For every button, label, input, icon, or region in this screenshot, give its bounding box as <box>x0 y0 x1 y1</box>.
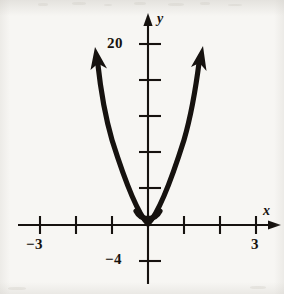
parabola-left-branch <box>98 62 148 224</box>
x-axis-label--3: −3 <box>26 237 43 252</box>
x-axis-label-3: 3 <box>251 237 259 252</box>
graph-figure: 20 −4 −3 3 y x <box>0 0 284 294</box>
y-axis-name: y <box>157 12 163 26</box>
y-tick-marks <box>139 44 161 261</box>
x-axis-arrowhead <box>268 221 281 230</box>
y-axis-arrowhead <box>143 13 152 26</box>
y-axis-label--4: −4 <box>105 252 122 267</box>
y-axis-label-20: 20 <box>107 36 123 51</box>
parabola-right-branch <box>148 60 199 224</box>
x-axis-name: x <box>263 204 270 218</box>
